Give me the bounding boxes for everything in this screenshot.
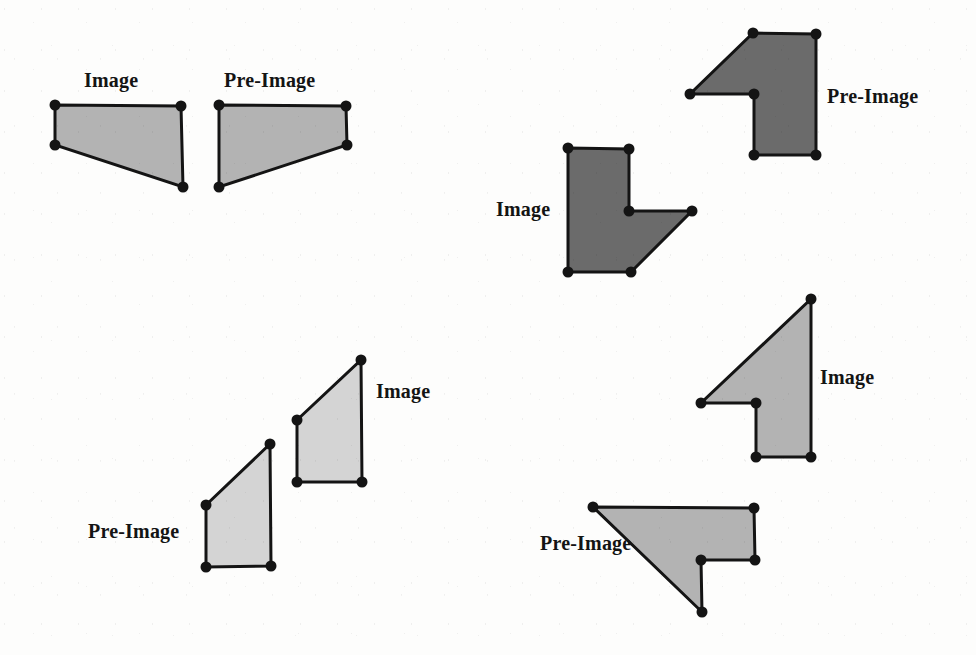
label-pair4-image: Image xyxy=(820,367,874,387)
vertex-dot xyxy=(751,452,762,463)
polygon-pair1-image xyxy=(55,105,183,187)
label-pair1-preimage: Pre-Image xyxy=(224,70,315,90)
vertex-dot xyxy=(697,607,708,618)
vertex-dot xyxy=(342,140,353,151)
vertex-dot xyxy=(749,503,760,514)
vertex-dot xyxy=(696,398,707,409)
vertex-dot xyxy=(806,452,817,463)
vertex-dot xyxy=(265,439,276,450)
vertex-dot xyxy=(588,502,599,513)
vertex-dot xyxy=(201,500,212,511)
vertex-dot xyxy=(178,182,189,193)
polygon-pair3-image xyxy=(297,360,362,482)
vertex-dot xyxy=(624,144,635,155)
label-pair3-preimage: Pre-Image xyxy=(88,521,179,541)
polygon-pair1-preimage xyxy=(219,105,347,187)
label-pair2-preimage: Pre-Image xyxy=(827,86,918,106)
vertex-dot xyxy=(292,415,303,426)
vertex-dot xyxy=(751,398,762,409)
vertex-dot xyxy=(811,150,822,161)
vertex-dot xyxy=(626,267,637,278)
vertex-dot xyxy=(563,143,574,154)
vertex-dot xyxy=(356,355,367,366)
vertex-dot xyxy=(624,206,635,217)
vertex-dot xyxy=(806,294,817,305)
label-pair2-image: Image xyxy=(496,199,550,219)
figure-page: ImagePre-ImagePre-ImageImageImagePre-Ima… xyxy=(0,0,976,655)
vertex-dot xyxy=(696,555,707,566)
vertex-dot xyxy=(341,101,352,112)
vertex-dot xyxy=(357,477,368,488)
vertex-dot xyxy=(748,28,759,39)
polygon-pair4-preimage xyxy=(593,507,755,612)
vertex-dot xyxy=(292,477,303,488)
label-pair1-image: Image xyxy=(84,70,138,90)
vertex-dot xyxy=(563,267,574,278)
vertex-dot xyxy=(811,29,822,40)
label-pair4-preimage: Pre-Image xyxy=(540,533,631,553)
vertex-dot xyxy=(687,206,698,217)
vertex-dot xyxy=(214,100,225,111)
vertex-dot xyxy=(750,555,761,566)
vertex-dot xyxy=(685,89,696,100)
polygon-pair4-image xyxy=(701,299,811,457)
vertex-dot xyxy=(214,182,225,193)
vertex-dot xyxy=(176,101,187,112)
vertex-dot xyxy=(50,100,61,111)
vertex-dot xyxy=(749,89,760,100)
vertex-dot xyxy=(50,140,61,151)
vertex-dot xyxy=(749,150,760,161)
vertex-dot xyxy=(266,561,277,572)
label-pair3-image: Image xyxy=(376,381,430,401)
vertex-dot xyxy=(201,562,212,573)
polygon-pair3-preimage xyxy=(206,444,271,567)
